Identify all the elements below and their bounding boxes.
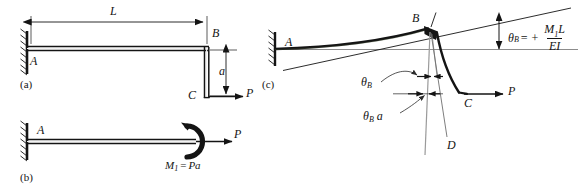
- panel-c-deflected-leg: [437, 33, 459, 93]
- panel-c-label-B: B: [412, 12, 419, 24]
- figure-canvas: A B C L a P (a) A P M1=Pa (b) A B C D P …: [0, 0, 588, 192]
- panel-a-vertical-member: [204, 47, 210, 98]
- numerator-subscript: 1: [554, 30, 558, 39]
- panel-b-fixed-support: [21, 121, 28, 161]
- panel-a-span-dimension: [31, 16, 207, 44]
- panel-a-label-a: a: [219, 65, 225, 77]
- panel-a-label-A: A: [30, 55, 37, 67]
- panel-b-moment-equation: M1=Pa: [165, 160, 201, 171]
- equation-fraction: M1L EI: [542, 23, 567, 52]
- equation-denominator: EI: [547, 38, 562, 52]
- moment-equals: =: [180, 159, 186, 171]
- panel-b-label-P: P: [234, 128, 241, 140]
- panel-a-label-C: C: [188, 89, 196, 101]
- equation-theta-subscript: B: [514, 36, 519, 44]
- panel-c-label-C: C: [464, 97, 472, 109]
- panel-b-label-A: A: [37, 124, 44, 136]
- diagram-vector-layer: [0, 0, 588, 192]
- panel-a-graphics: [21, 16, 244, 98]
- equation-equals: =: [521, 32, 528, 44]
- moment-value: Pa: [188, 159, 200, 171]
- equation-numerator: M1L: [542, 23, 567, 38]
- panel-c-rotation-equation: θB=+ M1L EI: [508, 23, 567, 52]
- panel-c-leg-tangent: [432, 34, 437, 76]
- theta-a-subscript: B: [369, 115, 374, 124]
- panel-a-identifier: (a): [20, 79, 32, 90]
- panel-b-graphics: [21, 121, 233, 161]
- panel-c-label-D: D: [447, 139, 456, 151]
- panel-c-label-P: P: [508, 85, 515, 97]
- panel-c-identifier: (c): [262, 79, 274, 90]
- panel-c-fixed-support: [269, 30, 276, 66]
- panel-c-theta-b-a-annotation: θBa: [363, 110, 383, 122]
- panel-c-theta-b-annotation: θB: [361, 76, 372, 88]
- panel-a-fixed-support: [21, 29, 28, 75]
- panel-a-horizontal-member: [27, 47, 209, 51]
- moment-symbol: M: [165, 159, 174, 171]
- equation-sign: +: [532, 32, 539, 44]
- panel-b-identifier: (b): [20, 172, 33, 183]
- panel-a-label-B: B: [212, 27, 219, 39]
- panel-c-theta-a-leader: [400, 96, 425, 114]
- panel-c-b-tick: [431, 13, 436, 28]
- panel-a-label-L: L: [110, 5, 117, 17]
- panel-c-theta-leader: [381, 71, 417, 82]
- moment-subscript: 1: [174, 164, 178, 173]
- numerator-M: M: [544, 22, 554, 36]
- theta-subscript: B: [367, 81, 372, 90]
- panel-c-deflection-shadow: [275, 30, 427, 50]
- panel-a-label-P: P: [246, 87, 253, 99]
- panel-c-deflected-beam: [275, 29, 428, 50]
- numerator-L: L: [558, 22, 565, 36]
- panel-b-beam: [27, 140, 196, 144]
- panel-c-label-A: A: [285, 36, 292, 48]
- theta-a-multiplier: a: [377, 109, 383, 123]
